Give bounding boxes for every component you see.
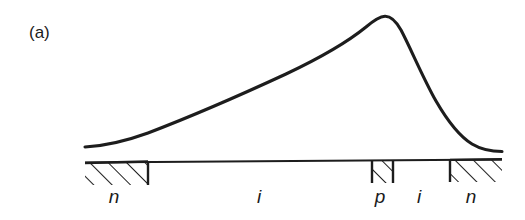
- layer-n-right-hatch: [448, 158, 506, 184]
- layer-n-left-hatch: [83, 162, 151, 186]
- layer-n-right: [448, 158, 506, 184]
- optical-field-profile-curve: [85, 16, 502, 151]
- region-label-n-left: n: [109, 186, 120, 207]
- region-label-p: p: [374, 186, 386, 207]
- region-label-i-left: i: [257, 186, 262, 207]
- region-label-n-right: n: [466, 186, 477, 207]
- figure-panel-a: (a) n: [0, 0, 525, 220]
- layer-p: [370, 159, 396, 185]
- region-label-i-right: i: [417, 186, 422, 207]
- layer-n-right-top-border: [450, 159, 502, 160]
- layer-n-left: [83, 162, 151, 187]
- panel-label: (a): [29, 23, 50, 42]
- layer-n-left-top-border: [85, 162, 148, 164]
- device-profile-diagram: (a) n: [0, 0, 525, 220]
